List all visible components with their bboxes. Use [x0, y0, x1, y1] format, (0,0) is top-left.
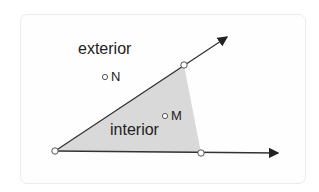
- point-m-label: M: [171, 108, 182, 123]
- vertex-point: [52, 148, 58, 154]
- lower-ray-point: [198, 150, 204, 156]
- interior-label: interior: [110, 121, 159, 139]
- upper-ray-point: [181, 62, 187, 68]
- exterior-label: exterior: [78, 40, 131, 58]
- angle-diagram: [0, 0, 319, 192]
- point-n-marker: [102, 74, 107, 79]
- point-m-marker: [162, 113, 167, 118]
- point-n-label: N: [111, 69, 120, 84]
